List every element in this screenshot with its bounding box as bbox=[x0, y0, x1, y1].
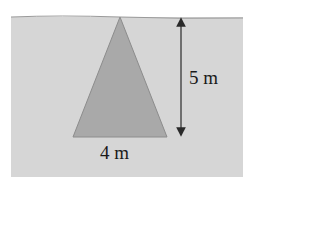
height-label: 5 m bbox=[189, 68, 218, 87]
base-label: 4 m bbox=[100, 143, 129, 162]
